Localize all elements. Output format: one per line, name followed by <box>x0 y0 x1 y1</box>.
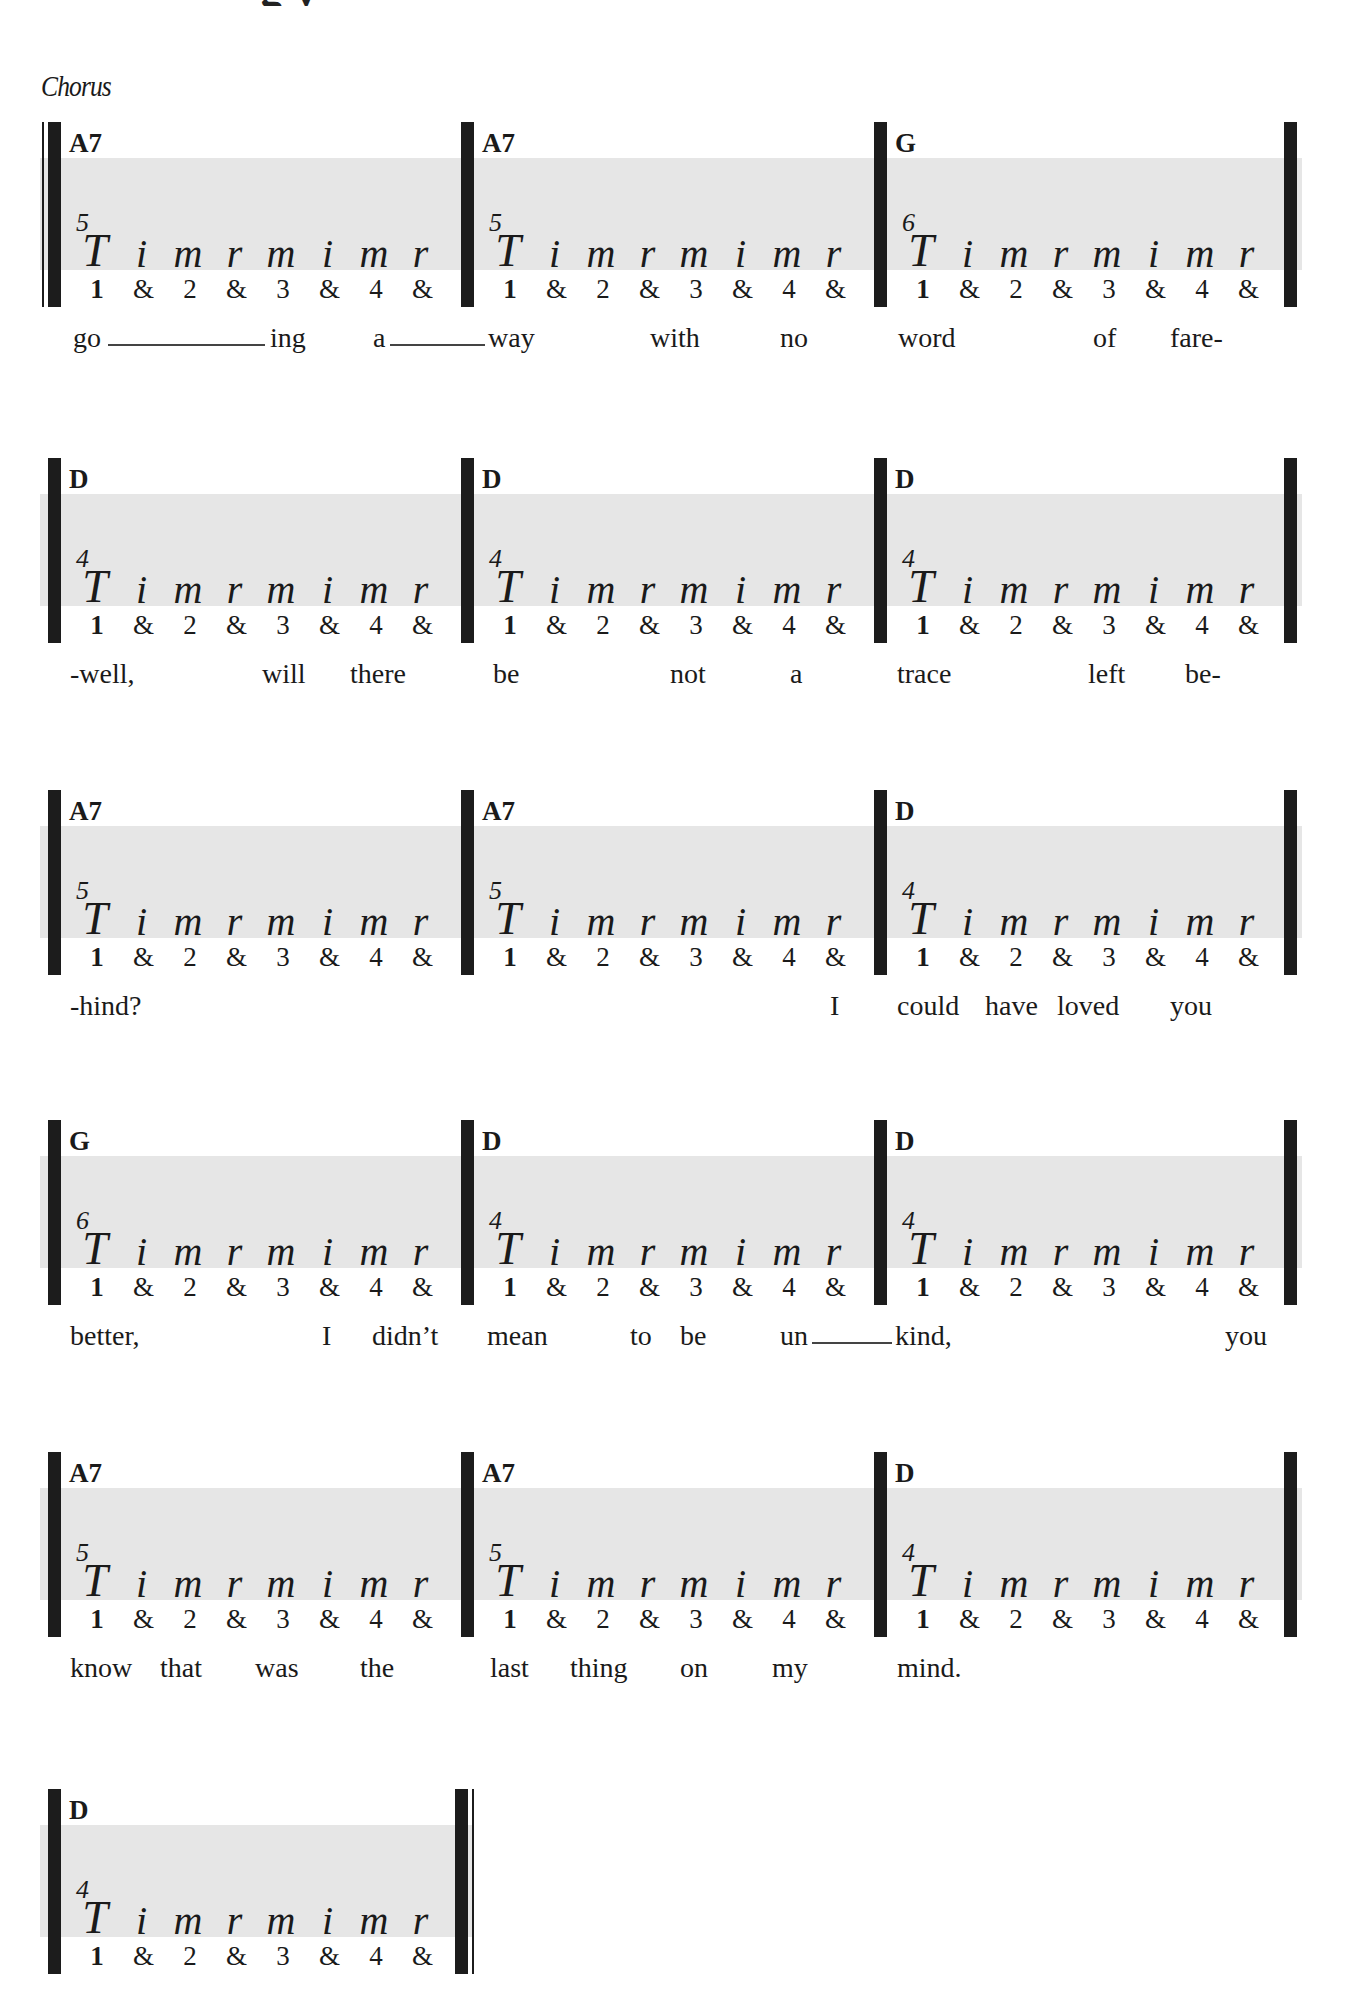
start-barline <box>48 1120 61 1305</box>
finger-i: i <box>308 898 348 945</box>
finger-m: m <box>168 566 208 613</box>
chord-symbol: D <box>482 464 502 495</box>
lyric-syllable: the <box>360 1652 394 1684</box>
finger-r: r <box>628 230 668 277</box>
tab-system: A75Timrmimr1&2&3&4&A75Timrmimr1&2&3&4&D4… <box>0 1452 1358 1752</box>
finger-r: r <box>814 898 854 945</box>
beat-count: & <box>310 1941 350 1972</box>
beat-count: & <box>1043 274 1083 305</box>
measure: A75Timrmimr1&2&3&4& <box>61 1452 461 1637</box>
finger-T: T <box>75 560 115 613</box>
beat-count: & <box>217 1941 257 1972</box>
finger-i: i <box>948 1560 988 1607</box>
finger-m: m <box>354 1897 394 1944</box>
finger-i: i <box>122 230 162 277</box>
measure: G6Timrmimr1&2&3&4& <box>887 122 1287 307</box>
finger-m: m <box>674 566 714 613</box>
lyric-syllable: way <box>488 322 535 354</box>
beat-count: & <box>630 1272 670 1303</box>
finger-m: m <box>168 1228 208 1275</box>
beat-count: & <box>1229 1272 1269 1303</box>
finger-i: i <box>721 898 761 945</box>
beat-count: 2 <box>170 1941 210 1972</box>
finger-m: m <box>767 898 807 945</box>
beat-count: 3 <box>1089 1604 1129 1635</box>
finger-r: r <box>1041 1228 1081 1275</box>
finger-m: m <box>581 230 621 277</box>
final-thin-barline <box>472 1789 474 1974</box>
beat-count: & <box>537 610 577 641</box>
beat-count: & <box>124 942 164 973</box>
chord-symbol: A7 <box>482 128 515 159</box>
finger-T: T <box>488 892 528 945</box>
lyric-syllable: left <box>1088 658 1125 690</box>
beat-count: 3 <box>1089 274 1129 305</box>
beat-count: 2 <box>996 1272 1036 1303</box>
beat-count: 1 <box>490 942 530 973</box>
finger-r: r <box>215 898 255 945</box>
beat-count: & <box>1136 274 1176 305</box>
lyric-syllable: un <box>780 1320 808 1352</box>
finger-m: m <box>674 898 714 945</box>
barline <box>874 458 887 643</box>
song-title-fragment: g y <box>260 0 318 6</box>
start-barline <box>48 790 61 975</box>
beat-count: & <box>403 1604 443 1635</box>
beat-count: 1 <box>77 274 117 305</box>
finger-m: m <box>168 230 208 277</box>
beat-count: 4 <box>1182 610 1222 641</box>
finger-i: i <box>948 230 988 277</box>
beat-count: 3 <box>263 1272 303 1303</box>
finger-m: m <box>261 1897 301 1944</box>
lyric-syllable: could <box>897 990 959 1022</box>
beat-count: 2 <box>996 274 1036 305</box>
beat-count: 1 <box>903 1272 943 1303</box>
finger-i: i <box>535 1560 575 1607</box>
finger-m: m <box>168 898 208 945</box>
beat-count: & <box>537 1604 577 1635</box>
beat-count: & <box>403 274 443 305</box>
finger-m: m <box>261 566 301 613</box>
lyric-syllable: kind, <box>895 1320 952 1352</box>
beat-count: & <box>1136 610 1176 641</box>
finger-m: m <box>767 1560 807 1607</box>
finger-m: m <box>354 1228 394 1275</box>
barline <box>461 790 474 975</box>
beat-count: 1 <box>490 1604 530 1635</box>
lyric-syllable: to <box>630 1320 652 1352</box>
finger-i: i <box>122 1897 162 1944</box>
lyric-extender-line <box>108 344 265 346</box>
finger-T: T <box>901 560 941 613</box>
finger-m: m <box>994 230 1034 277</box>
measure: A75Timrmimr1&2&3&4& <box>61 790 461 975</box>
barline <box>874 790 887 975</box>
finger-r: r <box>814 566 854 613</box>
beat-count: 2 <box>583 274 623 305</box>
chord-symbol: A7 <box>69 128 102 159</box>
finger-r: r <box>401 1560 441 1607</box>
finger-r: r <box>628 1228 668 1275</box>
finger-i: i <box>948 1228 988 1275</box>
finger-m: m <box>1087 898 1127 945</box>
finger-r: r <box>1041 230 1081 277</box>
barline <box>461 458 474 643</box>
finger-m: m <box>581 566 621 613</box>
beat-count: & <box>723 1604 763 1635</box>
beat-count: 4 <box>1182 274 1222 305</box>
finger-r: r <box>401 898 441 945</box>
beat-count: & <box>124 610 164 641</box>
finger-i: i <box>308 1228 348 1275</box>
chord-symbol: D <box>895 1126 915 1157</box>
beat-count: & <box>1043 942 1083 973</box>
tab-system: A75Timrmimr1&2&3&4&A75Timrmimr1&2&3&4&G6… <box>0 122 1358 422</box>
beat-count: & <box>217 1272 257 1303</box>
finger-r: r <box>401 1228 441 1275</box>
finger-i: i <box>308 230 348 277</box>
beat-count: 1 <box>77 1604 117 1635</box>
finger-T: T <box>901 1222 941 1275</box>
finger-m: m <box>581 1560 621 1607</box>
tab-system: A75Timrmimr1&2&3&4&A75Timrmimr1&2&3&4&D4… <box>0 790 1358 1090</box>
beat-count: 1 <box>490 274 530 305</box>
lyric-syllable: mean <box>487 1320 548 1352</box>
finger-i: i <box>948 566 988 613</box>
